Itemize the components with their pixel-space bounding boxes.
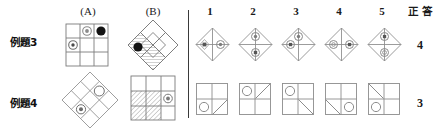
header-option-3: 3 [289,5,303,17]
glyph-circle-top-left [242,86,251,95]
header-option-4: 4 [332,5,346,17]
row-label-example4: 例題4 [10,95,37,110]
row1-figure-a [65,23,109,67]
row1-correct-answer: 4 [410,38,430,53]
row1-option-2[interactable] [239,28,272,61]
row1-option-4[interactable] [325,28,358,61]
glyph-diagonal-top-left [369,84,384,99]
row2-option-5[interactable] [368,83,400,115]
glyph-diagonal-bottom-right [299,100,314,115]
row1-option-1[interactable] [196,28,229,61]
header-option-5: 5 [375,5,389,17]
row1-figure-b [128,20,178,70]
row2-figure-a [62,72,118,128]
row2-correct-answer: 3 [410,96,430,111]
header-col-b: (B) [139,5,167,17]
row1-option-3[interactable] [282,28,315,61]
header-option-1: 1 [203,5,217,17]
header-answer-label: 正 答 [398,5,442,17]
exam-figure-sheet: (A) (B) 1 2 3 4 5 正 答 例題3 [0,0,446,130]
glyph-filled-dot-left [133,42,142,51]
row1-option-5[interactable] [368,28,401,61]
row2-option-3[interactable] [282,83,314,115]
header-col-a: (A) [74,5,102,17]
row-label-example3: 例題3 [10,34,37,49]
column-headers: (A) (B) 1 2 3 4 5 正 答 [0,0,446,22]
header-option-2: 2 [246,5,260,17]
glyph-circle-bottom-left [199,102,208,111]
glyph-ring-middle-left [69,41,78,50]
row2-option-2[interactable] [239,83,271,115]
row2-option-4[interactable] [325,83,357,115]
glyph-diagonal-bottom-right [213,100,228,115]
glyph-ring-top-middle [83,27,92,36]
glyph-ring-lower-left [76,105,85,114]
glyph-circle-top-left [285,86,294,95]
glyph-circle-bottom-right [344,102,353,111]
glyph-filled-dot-top-right [96,26,105,35]
section-divider [188,10,189,118]
row2-option-1[interactable] [196,83,228,115]
glyph-diagonal-top-right [256,84,271,99]
row2-figure-b [130,75,176,121]
glyph-diagonal-bottom-left [326,100,341,115]
glyph-ring-middle-right [164,94,173,103]
glyph-circle-upper-right [94,86,104,96]
glyph-circle-bottom-left [371,102,380,111]
